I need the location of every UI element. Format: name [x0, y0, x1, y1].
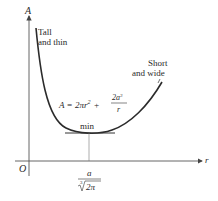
- tall-thin-label-line2: and thin: [38, 37, 68, 47]
- short-wide-label-line1: Short: [148, 58, 168, 68]
- min-label: min: [80, 121, 95, 131]
- svg-text:a: a: [87, 168, 92, 178]
- min-x-value-label: a 3 2π: [78, 168, 101, 192]
- surface-area-diagram: A r O Tall and thin Short and wide A = 2…: [0, 0, 218, 201]
- short-wide-label-line2: and wide: [132, 68, 165, 78]
- svg-text:2a3: 2a3: [112, 93, 123, 102]
- area-formula: A = 2πr2+ 2a3 r: [58, 93, 127, 114]
- svg-text:2π: 2π: [86, 182, 96, 192]
- short-wide-pointer: [158, 79, 160, 83]
- svg-text:A = 2πr2+: A = 2πr2+: [58, 99, 100, 110]
- svg-text:r: r: [117, 105, 121, 114]
- svg-text:3: 3: [80, 180, 83, 185]
- tall-thin-label-line1: Tall: [38, 27, 52, 37]
- x-axis-label: r: [205, 155, 209, 165]
- y-axis-label: A: [24, 5, 32, 16]
- origin-label: O: [19, 163, 26, 174]
